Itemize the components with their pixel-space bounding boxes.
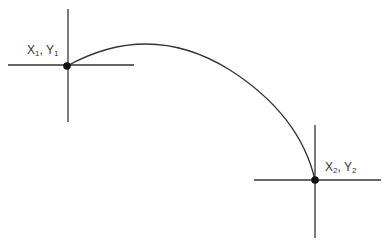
point-2-label: X2, Y2 (325, 160, 356, 175)
arc-diagram (0, 0, 389, 248)
point-1-label: X1, Y1 (27, 43, 58, 58)
point-1-dot (63, 62, 71, 70)
point-2-dot (311, 176, 319, 184)
